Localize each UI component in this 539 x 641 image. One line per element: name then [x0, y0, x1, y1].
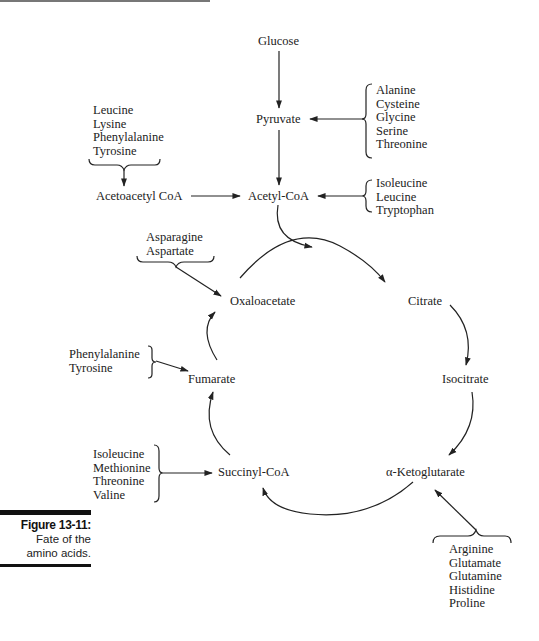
amino-acid: Phenylalanine: [69, 348, 140, 362]
node-acetoacetyl-coa: Acetoacetyl CoA: [96, 189, 182, 203]
amino-acid: Glutamine: [449, 570, 502, 584]
amino-acid: Leucine: [376, 191, 434, 205]
amino-group-acetyl-coa: Isoleucine Leucine Tryptophan: [376, 177, 434, 218]
node-pyruvate: Pyruvate: [256, 112, 300, 126]
figure-caption: Figure 13-11: Fate of the amino acids.: [0, 510, 91, 567]
amino-acid: Cysteine: [376, 98, 427, 112]
amino-acid: Serine: [376, 125, 427, 139]
amino-acid: Tyrosine: [69, 362, 140, 376]
amino-acid: Arginine: [449, 543, 502, 557]
node-oxaloacetate: Oxaloacetate: [230, 294, 295, 308]
amino-acid: Valine: [93, 489, 151, 503]
node-acetyl-coa: Acetyl-CoA: [248, 189, 309, 203]
amino-acid: Tyrosine: [93, 145, 164, 159]
figure-label: Figure 13-11:: [0, 518, 91, 532]
amino-acid: Proline: [449, 597, 502, 611]
node-alpha-ketoglutarate: α-Ketoglutarate: [386, 465, 465, 479]
node-glucose: Glucose: [258, 34, 299, 48]
node-fumarate: Fumarate: [188, 372, 235, 386]
amino-acid: Methionine: [93, 462, 151, 476]
node-isocitrate: Isocitrate: [442, 372, 489, 386]
amino-acid: Threonine: [376, 138, 427, 152]
amino-group-succinyl-coa: Isoleucine Methionine Threonine Valine: [93, 448, 151, 502]
amino-acid: Aspartate: [146, 245, 203, 259]
node-succinyl-coa: Succinyl-CoA: [218, 465, 290, 479]
amino-acid: Leucine: [93, 104, 164, 118]
caption-bottom-bar: [0, 564, 91, 567]
caption-top-bar: [0, 510, 91, 515]
amino-acid: Phenylalanine: [93, 131, 164, 145]
amino-acid: Isoleucine: [376, 177, 434, 191]
amino-acid: Asparagine: [146, 231, 203, 245]
caption-line: Fate of the: [0, 532, 91, 546]
amino-acid: Tryptophan: [376, 204, 434, 218]
amino-acid: Glutamate: [449, 557, 502, 571]
amino-acid: Lysine: [93, 118, 164, 132]
amino-acid: Threonine: [93, 475, 151, 489]
amino-group-oxaloacetate: Asparagine Aspartate: [146, 231, 203, 258]
amino-acid: Histidine: [449, 584, 502, 598]
amino-acid: Glycine: [376, 111, 427, 125]
amino-acid: Isoleucine: [93, 448, 151, 462]
amino-group-fumarate: Phenylalanine Tyrosine: [69, 348, 140, 375]
amino-group-acetoacetyl: Leucine Lysine Phenylalanine Tyrosine: [93, 104, 164, 158]
amino-group-pyruvate: Alanine Cysteine Glycine Serine Threonin…: [376, 84, 427, 152]
caption-line: amino acids.: [0, 546, 91, 560]
amino-group-alpha-ketoglutarate: Arginine Glutamate Glutamine Histidine P…: [449, 543, 502, 611]
amino-acid: Alanine: [376, 84, 427, 98]
node-citrate: Citrate: [408, 294, 442, 308]
